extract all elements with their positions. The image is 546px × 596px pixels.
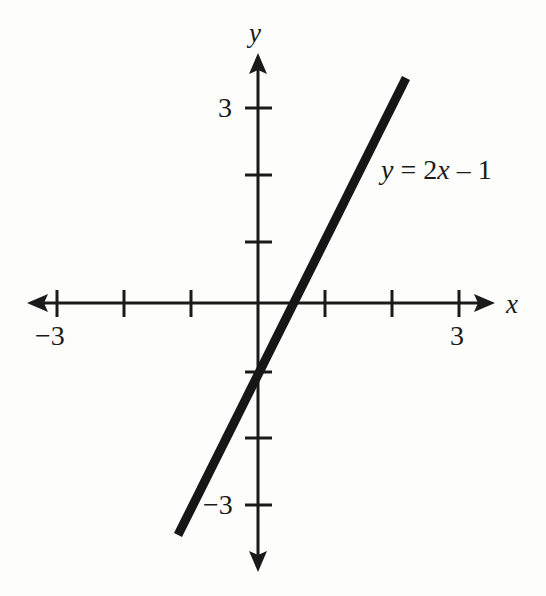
x-tick-label-negative-3: −3 — [35, 322, 65, 350]
equation-constant: 1 — [478, 154, 492, 185]
equation-coefficient: 2 — [423, 154, 437, 185]
y-axis — [245, 53, 272, 572]
graph-canvas — [0, 0, 546, 596]
y-tick-label-3: 3 — [218, 94, 232, 122]
equation-y-symbol: y — [381, 154, 393, 185]
equation-x-symbol: x — [437, 154, 449, 185]
equation-annotation: y = 2x – 1 — [381, 156, 492, 184]
equation-minus-sign: – — [457, 154, 471, 185]
x-axis-label: x — [506, 291, 518, 318]
equation-equals-sign: = — [400, 154, 416, 185]
x-axis — [27, 290, 495, 317]
x-tick-label-3: 3 — [450, 322, 464, 350]
line-series-y-2x-minus-1 — [178, 78, 406, 535]
y-axis-label: y — [249, 20, 261, 47]
y-tick-label-negative-3: −3 — [203, 491, 233, 519]
coordinate-plane-figure: y x 3 −3 −3 3 y = 2x – 1 — [0, 0, 546, 596]
